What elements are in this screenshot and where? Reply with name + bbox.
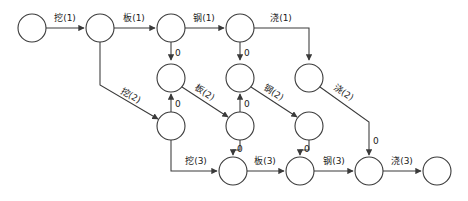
edge-dummy-n4-n6: 0	[240, 42, 250, 60]
edge-steel-1-label: 钢(1)	[193, 12, 215, 23]
edge-dig-2-line	[100, 42, 158, 119]
edge-dummy-n10-n12: 0	[300, 140, 310, 155]
network-diagram: 挖(1) 板(1) 钢(1) 浇(1) 挖(2) 板(2)	[0, 0, 468, 201]
edge-form-2-label: 板(2)	[193, 82, 217, 103]
node-n14[interactable]	[423, 157, 451, 185]
node-n8[interactable]	[157, 112, 185, 140]
node-n1[interactable]	[18, 14, 46, 42]
edge-dummy-n10-n12-label: 0	[304, 144, 310, 154]
node-n4[interactable]	[226, 14, 254, 42]
edge-pour-2-zero-label: 0	[373, 136, 379, 146]
edge-pour-2: 浇(2) 0	[320, 82, 379, 155]
edge-steel-2: 钢(2)	[251, 82, 297, 117]
edge-dummy-n8-n5: 0	[171, 94, 181, 112]
edge-pour-1-line	[254, 28, 309, 60]
edge-pour-3-label: 浇(3)	[391, 155, 413, 166]
node-n12[interactable]	[286, 157, 314, 185]
node-n9[interactable]	[226, 112, 254, 140]
edge-dig-3-label: 挖(3)	[185, 155, 207, 166]
edge-dummy-n9-n11-label: 0	[237, 144, 243, 154]
edge-pour-1-label: 浇(1)	[270, 12, 292, 23]
edge-dig-1: 挖(1)	[46, 12, 84, 28]
edge-form-2: 板(2)	[182, 82, 228, 117]
node-n5[interactable]	[157, 64, 185, 92]
edge-dummy-n4-n6-label: 0	[244, 48, 250, 58]
edge-dig-2-label: 挖(2)	[119, 85, 143, 105]
edge-dig-1-label: 挖(1)	[54, 12, 76, 23]
node-n6[interactable]	[226, 64, 254, 92]
edge-steel-3-label: 钢(3)	[323, 155, 345, 166]
edge-form-1: 板(1)	[114, 12, 155, 28]
edge-pour-1: 浇(1)	[254, 12, 309, 60]
edge-steel-2-label: 钢(2)	[262, 82, 286, 103]
edge-form-3: 板(3)	[247, 155, 284, 171]
network-diagram-canvas: 挖(1) 板(1) 钢(1) 浇(1) 挖(2) 板(2)	[0, 0, 468, 201]
edge-dummy-n9-n6-label: 0	[244, 99, 250, 109]
node-n3[interactable]	[157, 14, 185, 42]
edge-pour-2-label: 浇(2)	[332, 82, 356, 103]
edge-dummy-n3-n5: 0	[171, 42, 181, 60]
node-n10[interactable]	[295, 112, 323, 140]
edge-form-3-label: 板(3)	[254, 155, 276, 166]
edge-steel-1: 钢(1)	[185, 12, 224, 28]
edge-dummy-n9-n11: 0	[233, 140, 243, 155]
edge-dig-2: 挖(2)	[100, 42, 158, 119]
edge-dummy-n8-n5-label: 0	[175, 99, 181, 109]
node-n13[interactable]	[355, 157, 383, 185]
edge-pour-3: 浇(3)	[383, 155, 421, 171]
edge-steel-3: 钢(3)	[314, 155, 353, 171]
edge-form-1-label: 板(1)	[123, 12, 145, 23]
node-n7[interactable]	[295, 64, 323, 92]
edge-dummy-n3-n5-label: 0	[175, 48, 181, 58]
edge-dig-3: 挖(3)	[171, 140, 217, 171]
node-n11[interactable]	[219, 157, 247, 185]
edge-dummy-n9-n6: 0	[240, 94, 250, 112]
node-n2[interactable]	[86, 14, 114, 42]
